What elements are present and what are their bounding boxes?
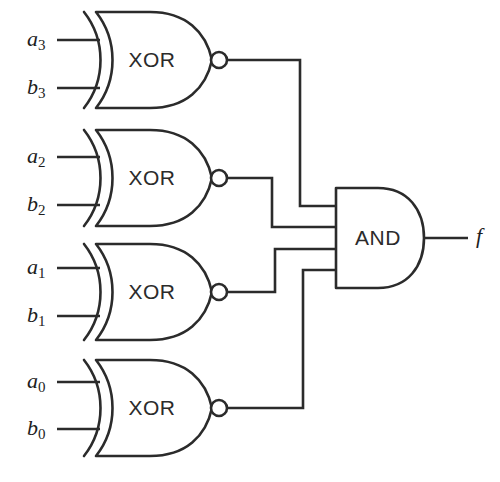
wire-xor3-to-and bbox=[227, 60, 336, 206]
xor2-label: XOR bbox=[128, 166, 175, 189]
gate-xor2[interactable]: XOR bbox=[84, 130, 227, 226]
input-label-b1: b1 bbox=[27, 302, 46, 329]
xor0-label: XOR bbox=[128, 396, 175, 419]
wire-xor2-to-and bbox=[227, 178, 336, 227]
gate-xor3[interactable]: XOR bbox=[84, 12, 227, 108]
xor1-label: XOR bbox=[128, 280, 175, 303]
input-label-a0: a0 bbox=[27, 368, 46, 395]
xor0-output-bubble bbox=[211, 400, 227, 416]
input-label-b2: b2 bbox=[27, 191, 46, 218]
circuit-diagram-canvas: XOR a3 b3 XOR a2 b2 XOR bbox=[0, 0, 500, 482]
gate-and[interactable]: AND bbox=[336, 188, 424, 288]
xor0-xor-arc bbox=[84, 360, 101, 456]
logic-circuit-svg: XOR a3 b3 XOR a2 b2 XOR bbox=[0, 0, 500, 482]
input-label-a3: a3 bbox=[27, 26, 46, 53]
xor1-xor-arc bbox=[84, 244, 101, 340]
gate-xor1[interactable]: XOR bbox=[84, 244, 227, 340]
xor2-xor-arc bbox=[84, 130, 101, 226]
input-label-b0: b0 bbox=[27, 415, 46, 442]
input-label-a1: a1 bbox=[27, 254, 46, 281]
input-label-b3: b3 bbox=[27, 74, 46, 101]
output-label-f: f bbox=[476, 223, 485, 248]
xor2-output-bubble bbox=[211, 170, 227, 186]
xor3-output-bubble bbox=[211, 52, 227, 68]
input-label-a2: a2 bbox=[27, 143, 46, 170]
and-label: AND bbox=[355, 226, 401, 249]
xor1-output-bubble bbox=[211, 284, 227, 300]
gate-xor0[interactable]: XOR bbox=[84, 360, 227, 456]
xor3-xor-arc bbox=[84, 12, 101, 108]
xor3-label: XOR bbox=[128, 48, 175, 71]
